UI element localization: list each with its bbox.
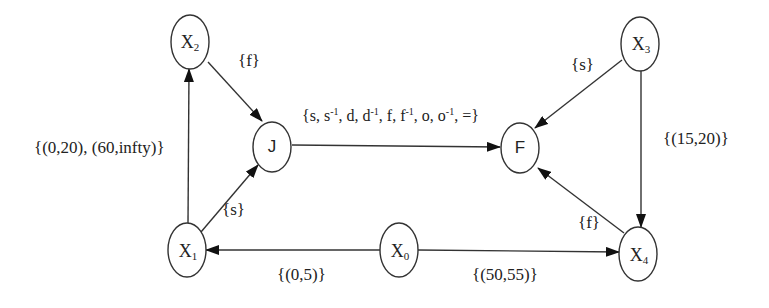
edge-label-x4-f: {f} [578,214,600,231]
edge-label-x3-x4: {(15,20)} [663,130,729,147]
edge-label-x3-f: {s} [571,56,594,73]
edge-x1-x2 [188,69,189,223]
node-label-x4: X4 [630,245,649,266]
node-label-f: F [515,138,525,158]
edge-label-x1-x2: {(0,20), (60,infty)} [34,139,165,156]
edge-x1-j [201,165,258,232]
edge-label-x0-x1: {(0,5)} [277,266,326,283]
edge-label-x2-j: {f} [238,52,260,69]
edge-label-x0-x4: {(50,55)} [472,266,538,283]
edge-x2-j [208,62,262,121]
edge-label-j-f: {s, s-1, d, d-1, f, f-1, o, o-1, =} [302,107,479,124]
edge-label-x1-j: {s} [222,201,245,218]
edge-j-f [292,145,500,147]
node-label-x1: X1 [179,241,198,262]
edge-x0-x4 [418,250,619,252]
node-label-j: J [268,137,277,157]
node-label-x0: X0 [391,241,410,262]
node-label-x3: X3 [632,34,651,55]
node-label-x2: X2 [181,32,200,53]
